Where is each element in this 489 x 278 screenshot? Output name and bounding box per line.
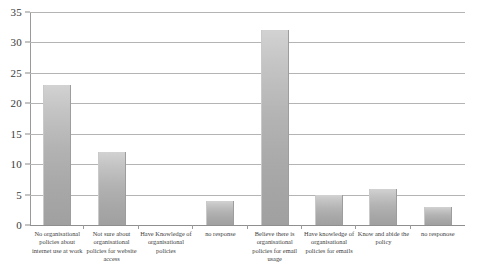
bar-slot [248,12,302,225]
bar[interactable] [206,201,234,225]
x-axis-category-labels: No organisational policies about interne… [30,230,465,276]
y-tick-label: 30 [11,36,22,48]
x-tick-mark [84,225,138,229]
x-category-label: Have Knowledge of organisational policie… [139,230,193,276]
bar-slot [193,12,247,225]
bar-slot [30,12,84,225]
x-tick-mark [30,225,84,229]
x-tick-mark [193,225,247,229]
x-category-label: Not sure about organisational policies f… [84,230,138,276]
bar[interactable] [424,207,452,225]
bar[interactable] [43,85,71,225]
bar-slot [139,12,193,225]
plot-area [30,12,465,225]
bar-slot [411,12,465,225]
bar[interactable] [315,195,343,225]
y-tick-label: 5 [16,189,22,201]
x-tick-mark [411,225,465,229]
bar-slot [356,12,410,225]
bar[interactable] [98,152,126,225]
x-tick-mark [248,225,302,229]
x-tick-mark [356,225,410,229]
bars-layer [30,12,465,225]
x-category-label: No organisational policies about interne… [30,230,84,276]
x-category-label: Believe there is organisational policies… [248,230,302,276]
y-tick-label: 25 [11,67,22,79]
x-axis-ticks [30,225,465,229]
bar-slot [84,12,138,225]
x-category-label: no response [193,230,247,276]
y-tick-label: 15 [11,128,22,140]
bar[interactable] [369,189,397,226]
bar[interactable] [261,30,289,225]
y-tick-label: 0 [16,219,22,231]
y-axis: 05101520253035 [0,12,30,225]
y-tick-label: 20 [11,97,22,109]
x-tick-mark [139,225,193,229]
y-tick-label: 10 [11,158,22,170]
bar-slot [302,12,356,225]
y-tick-label: 35 [11,6,22,18]
x-category-label: Know and abide the policy [356,230,410,276]
bar-chart: 05101520253035 No organisational policie… [0,0,489,278]
x-category-label: no responose [411,230,465,276]
x-tick-mark [302,225,356,229]
x-category-label: Have knowledge of organisational policie… [302,230,356,276]
